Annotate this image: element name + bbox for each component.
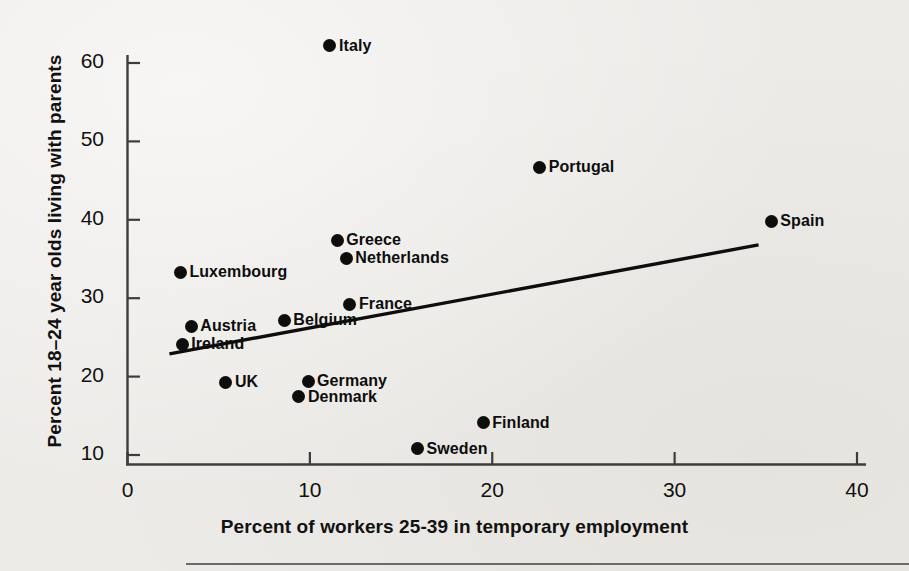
data-point-label: Luxembourg xyxy=(189,263,287,281)
data-point-marker[interactable] xyxy=(302,375,315,388)
x-tick-label: 10 xyxy=(289,478,331,502)
axes xyxy=(126,55,866,465)
data-point-marker[interactable] xyxy=(340,252,353,265)
data-point-label: UK xyxy=(235,373,258,391)
scatter-plot-figure: 102030405060 010203040 ItalyPortugalSpai… xyxy=(0,0,909,571)
data-point-marker[interactable] xyxy=(765,215,778,228)
x-axis-title: Percent of workers 25-39 in temporary em… xyxy=(0,516,909,538)
data-point-label: Belgium xyxy=(293,311,357,329)
y-axis-title-wrapper: Percent 18–24 year olds living with pare… xyxy=(44,16,74,486)
data-point-label: Netherlands xyxy=(355,249,449,267)
x-tick-label: 40 xyxy=(836,478,878,502)
data-point-label: France xyxy=(359,295,412,313)
data-point-marker[interactable] xyxy=(176,338,189,351)
x-axis-ticks xyxy=(128,452,858,465)
data-point-label: Ireland xyxy=(191,335,244,353)
y-axis-title: Percent 18–24 year olds living with pare… xyxy=(44,16,66,486)
data-point-label: Denmark xyxy=(308,388,377,406)
data-point-label: Portugal xyxy=(549,158,615,176)
trend-line-segment xyxy=(169,245,758,354)
data-point-label: Greece xyxy=(346,231,401,249)
trend-line xyxy=(169,245,758,354)
page-rule-line xyxy=(186,563,909,565)
data-point-marker[interactable] xyxy=(278,314,291,327)
data-point-marker[interactable] xyxy=(185,320,198,333)
data-point-marker[interactable] xyxy=(331,234,344,247)
x-tick-label: 0 xyxy=(107,478,149,502)
data-point-marker[interactable] xyxy=(174,266,187,279)
data-point-label: Italy xyxy=(339,37,372,55)
data-point-label: Finland xyxy=(492,414,550,432)
x-tick-label: 20 xyxy=(471,478,513,502)
data-point-label: Spain xyxy=(780,212,824,230)
data-point-label: Austria xyxy=(200,317,256,335)
y-axis-ticks xyxy=(128,63,141,455)
data-point-marker[interactable] xyxy=(477,416,490,429)
x-tick-label: 30 xyxy=(654,478,696,502)
data-point-label: Sweden xyxy=(426,440,487,458)
data-point-marker[interactable] xyxy=(219,376,232,389)
data-point-marker[interactable] xyxy=(533,161,546,174)
